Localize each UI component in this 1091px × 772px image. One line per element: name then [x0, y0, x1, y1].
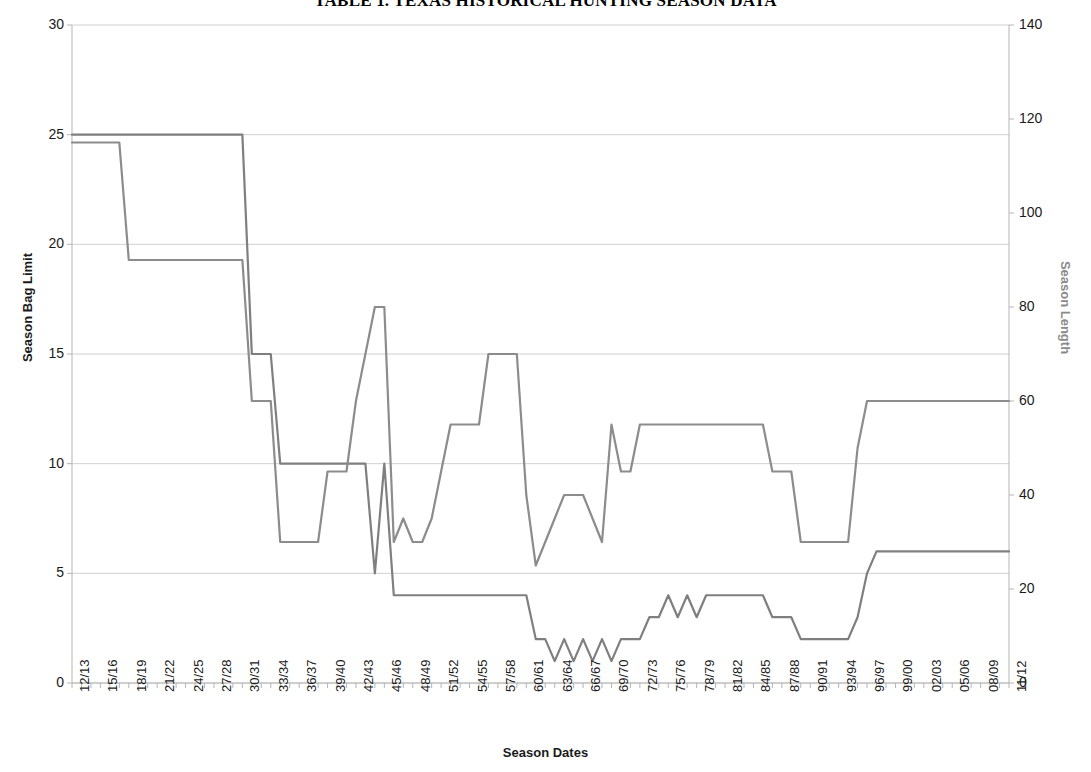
- x-axis-tick-label: 08/09: [986, 659, 1001, 692]
- x-axis-tick-label: 18/19: [134, 659, 149, 692]
- x-axis-tick-label: 57/58: [503, 659, 518, 692]
- x-axis-tick-label: 75/76: [673, 659, 688, 692]
- y-axis-right-tick-label: 60: [1019, 392, 1067, 408]
- x-axis-tick-label: 39/40: [333, 659, 348, 692]
- y-axis-left-tick-label: 0: [20, 674, 64, 690]
- series-line-season-bag-limit: [72, 135, 1009, 661]
- x-axis-title: Season Dates: [0, 745, 1091, 760]
- x-axis-tick-label: 48/49: [418, 659, 433, 692]
- x-axis-tick-label: 96/97: [872, 659, 887, 692]
- x-axis-tick-label: 12/13: [77, 659, 92, 692]
- y-axis-right-tick-label: 80: [1019, 298, 1067, 314]
- y-axis-left-tick-label: 20: [20, 235, 64, 251]
- x-axis-tick-label: 36/37: [304, 659, 319, 692]
- y-axis-right-ticks: [1009, 25, 1014, 683]
- x-axis-tick-label: 27/28: [219, 659, 234, 692]
- x-axis-tick-label: 11/12: [1014, 660, 1029, 692]
- x-axis-tick-label: 42/43: [361, 659, 376, 692]
- y-axis-right-tick-label: 20: [1019, 580, 1067, 596]
- x-axis-tick-label: 60/61: [531, 659, 546, 692]
- x-axis-tick-label: 54/55: [475, 659, 490, 692]
- y-axis-right-tick-label: 100: [1019, 204, 1067, 220]
- x-axis-tick-label: 99/00: [900, 659, 915, 692]
- y-axis-left-tick-label: 25: [20, 126, 64, 142]
- x-axis-tick-label: 78/79: [702, 659, 717, 692]
- y-axis-right-tick-label: 40: [1019, 486, 1067, 502]
- x-axis-tick-label: 90/91: [815, 659, 830, 692]
- x-axis-tick-label: 15/16: [105, 659, 120, 692]
- x-axis-tick-label: 84/85: [758, 659, 773, 692]
- chart-container: TABLE 1. TEXAS HISTORICAL HUNTING SEASON…: [0, 0, 1091, 772]
- x-axis-tick-label: 24/25: [191, 659, 206, 692]
- chart-title: TABLE 1. TEXAS HISTORICAL HUNTING SEASON…: [0, 0, 1091, 11]
- plot-area: [0, 0, 1091, 772]
- x-axis-tick-label: 45/46: [389, 659, 404, 692]
- data-series-layer: [72, 135, 1009, 661]
- x-axis-tick-label: 21/22: [162, 659, 177, 692]
- y-axis-left-tick-label: 5: [20, 564, 64, 580]
- x-axis-tick-label: 69/70: [616, 659, 631, 692]
- x-axis-tick-label: 66/67: [588, 659, 603, 692]
- x-axis-tick-label: 02/03: [929, 659, 944, 692]
- gridlines: [72, 25, 1009, 683]
- x-axis-tick-label: 72/73: [645, 659, 660, 692]
- y-axis-left-tick-label: 30: [20, 16, 64, 32]
- x-axis-tick-label: 05/06: [957, 659, 972, 692]
- x-axis-tick-label: 33/34: [276, 659, 291, 692]
- x-axis-tick-label: 87/88: [787, 659, 802, 692]
- y-axis-left-ticks: [67, 25, 72, 683]
- x-axis-tick-label: 93/94: [844, 659, 859, 692]
- y-axis-left-tick-label: 15: [20, 345, 64, 361]
- y-axis-right-tick-label: 120: [1019, 110, 1067, 126]
- y-axis-right-tick-label: 140: [1019, 16, 1067, 32]
- x-axis-tick-label: 30/31: [247, 659, 262, 692]
- y-axis-left-tick-label: 10: [20, 455, 64, 471]
- x-axis-tick-label: 51/52: [446, 659, 461, 692]
- x-axis-tick-label: 81/82: [730, 659, 745, 692]
- x-axis-tick-label: 63/64: [560, 659, 575, 692]
